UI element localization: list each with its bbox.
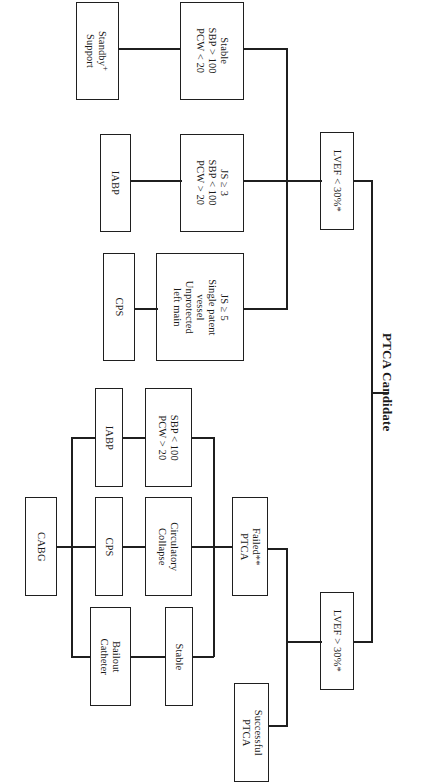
connector-lvef-low-out <box>286 180 322 182</box>
node-failed-ptca[interactable]: Failed** PTCA <box>232 497 268 596</box>
node-sbp-low-label: SBP < 100 PCW > 20 <box>157 414 181 460</box>
connector-failed-ptca-out <box>213 546 233 548</box>
node-circulatory-collapse[interactable]: Circulatory Collapse <box>145 497 192 596</box>
connector-root-trunk <box>371 180 373 642</box>
node-cps-upper[interactable]: CPS <box>103 253 135 361</box>
connector-cabg-bus-bottom <box>71 656 91 658</box>
page-title: PTCA Candidate <box>379 333 395 432</box>
node-successful-ptca[interactable]: Successful PTCA <box>234 683 269 782</box>
node-lvef-high[interactable]: LVEF > 30%* <box>320 592 354 690</box>
node-js3[interactable]: JS ≥ 3 SBP < 100 PCW > 20 <box>180 134 244 232</box>
connector-js5-to-cps <box>135 308 158 310</box>
node-cps-upper-label: CPS <box>113 298 125 317</box>
connector-stable-top-to-standby <box>118 48 181 50</box>
node-iabp-lower[interactable]: IABP <box>95 388 123 487</box>
connector-failed-to-circ-collapse <box>191 546 214 548</box>
node-lvef-high-label: LVEF > 30%* <box>331 610 343 672</box>
node-stable-top-label: Stable SBP > 100 PCW < 20 <box>194 28 229 74</box>
connector-failed-to-stable-bot <box>191 656 214 658</box>
node-standby-support-label: Standby+ Support <box>84 31 110 71</box>
connector-bus-to-stable-top <box>243 48 288 50</box>
node-standby-support[interactable]: Standby+ Support <box>76 2 119 100</box>
connector-lower-bus <box>286 548 288 726</box>
node-lvef-low-label: LVEF < 30%* <box>331 150 343 212</box>
connector-stable-bot-to-bailout <box>130 656 166 658</box>
node-js5-label: JS ≥ 5 Single patent vessel Unprotected … <box>171 279 230 335</box>
node-circulatory-collapse-label: Circulatory Collapse <box>157 522 181 571</box>
connector-js3-to-iabp <box>130 180 182 182</box>
node-stable-lower[interactable]: Stable <box>165 607 193 706</box>
flowchart-canvas: Fig. 12 Algorithm of Rescue Support Moda… <box>0 0 421 784</box>
node-js5[interactable]: JS ≥ 5 Single patent vessel Unprotected … <box>156 253 244 361</box>
node-iabp-upper-label: IABP <box>110 171 122 195</box>
connector-root-to-lvef-low <box>353 180 373 182</box>
connector-root-to-lvef-high <box>353 641 373 643</box>
connector-bus-to-failed-ptca <box>268 548 288 550</box>
connector-lvef-high-out <box>286 641 322 643</box>
node-lvef-low[interactable]: LVEF < 30%* <box>320 132 354 230</box>
connector-bus-to-successful-ptca <box>268 725 288 727</box>
node-cps-lower-label: CPS <box>103 537 115 556</box>
connector-root-stub <box>371 392 389 394</box>
node-bailout-catheter[interactable]: Bailout Catheter <box>90 607 131 706</box>
node-cabg-label: CABG <box>35 532 47 562</box>
connector-upper-bus <box>286 48 288 310</box>
node-successful-ptca-label: Successful PTCA <box>240 710 264 756</box>
node-bailout-catheter-label: Bailout Catheter <box>99 638 123 674</box>
connector-failed-to-sbp-low <box>191 437 214 439</box>
node-cps-lower[interactable]: CPS <box>95 497 123 596</box>
node-js3-label: JS ≥ 3 SBP < 100 PCW > 20 <box>194 160 229 206</box>
node-cabg[interactable]: CABG <box>25 497 57 596</box>
connector-bus-to-js3 <box>243 180 288 182</box>
node-iabp-upper[interactable]: IABP <box>100 134 131 232</box>
node-sbp-low[interactable]: SBP < 100 PCW > 20 <box>145 388 192 487</box>
connector-circ-collapse-to-cps <box>122 546 146 548</box>
node-iabp-lower-label: IABP <box>103 425 115 449</box>
node-stable-lower-label: Stable <box>173 643 185 670</box>
connector-bus-to-js5 <box>243 308 288 310</box>
node-failed-ptca-label: Failed** PTCA <box>238 528 262 566</box>
connector-cabg-bus-top <box>71 437 96 439</box>
connector-cabg-to-bus <box>56 546 96 548</box>
node-stable-top[interactable]: Stable SBP > 100 PCW < 20 <box>180 2 244 100</box>
connector-sbp-low-to-iabp <box>122 437 146 439</box>
